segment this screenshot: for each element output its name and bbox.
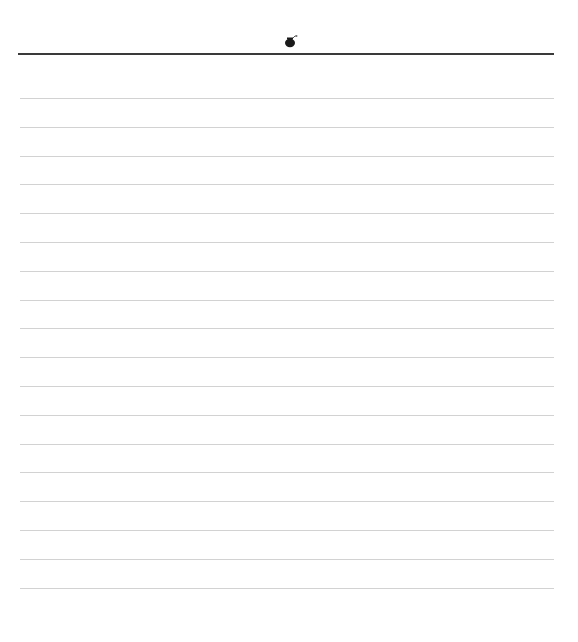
- ruled-line: [20, 415, 554, 416]
- ruled-line: [20, 127, 554, 128]
- ruled-line: [20, 588, 554, 589]
- ruled-line: [20, 472, 554, 473]
- bomb-icon: [284, 33, 298, 47]
- lined-paper-page: [0, 0, 578, 642]
- ruled-line: [20, 386, 554, 387]
- ruled-line: [20, 300, 554, 301]
- ruled-line: [20, 328, 554, 329]
- header-rule: [18, 53, 554, 55]
- ruled-line: [20, 98, 554, 99]
- ruled-line: [20, 357, 554, 358]
- ruled-line: [20, 501, 554, 502]
- ruled-line: [20, 444, 554, 445]
- ruled-line: [20, 184, 554, 185]
- ruled-line: [20, 559, 554, 560]
- ruled-line: [20, 156, 554, 157]
- ruled-line: [20, 213, 554, 214]
- ruled-line: [20, 242, 554, 243]
- ruled-line: [20, 530, 554, 531]
- ruled-line: [20, 271, 554, 272]
